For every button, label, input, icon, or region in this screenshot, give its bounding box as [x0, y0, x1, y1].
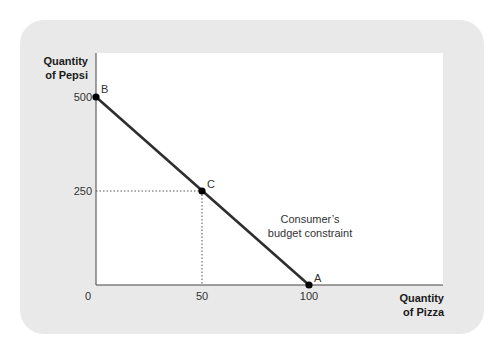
y-tick-500: 500 — [68, 91, 92, 104]
y-tick-250: 250 — [68, 185, 92, 198]
budget-constraint-annotation: Consumer’s budget constraint — [258, 212, 362, 240]
x-axis-title: Quantity of Pizza — [386, 291, 444, 319]
point-a-label: A — [314, 272, 321, 284]
x-tick-50: 50 — [192, 290, 212, 303]
point-c — [198, 187, 205, 194]
x-axis-title-line2: of Pizza — [386, 305, 444, 319]
annotation-line1: Consumer’s — [258, 212, 362, 226]
y-axis-title-line2: of Pepsi — [30, 68, 88, 82]
point-b-label: B — [101, 83, 108, 95]
y-axis-title: Quantity of Pepsi — [30, 54, 88, 82]
annotation-line2: budget constraint — [258, 226, 362, 240]
point-b — [92, 93, 99, 100]
x-tick-100: 100 — [296, 290, 322, 303]
x-tick-0: 0 — [78, 290, 98, 303]
point-a — [305, 281, 312, 288]
x-axis-title-line1: Quantity — [386, 291, 444, 305]
y-axis-title-line1: Quantity — [30, 54, 88, 68]
point-c-label: C — [207, 178, 215, 190]
